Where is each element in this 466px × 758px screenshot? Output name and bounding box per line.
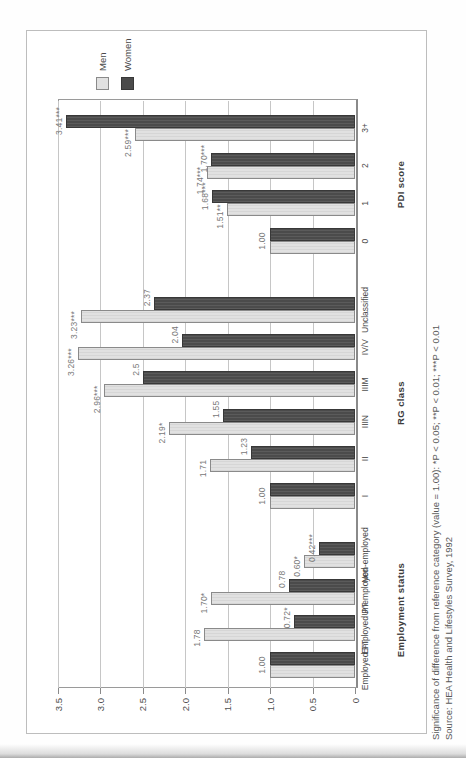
bar-men-iiim xyxy=(104,384,355,397)
tick-label-2-0: 2.0 xyxy=(180,698,191,724)
tick-mark-1-0 xyxy=(270,688,271,694)
value-label-men-non-employed: 0.60* xyxy=(292,556,302,577)
footnote-significance: Significance of difference from referenc… xyxy=(430,325,441,740)
group-title-rg-class: RG class xyxy=(395,318,406,488)
category-label-unclassified: Unclassified xyxy=(360,278,370,342)
bar-men-unclassified xyxy=(81,310,355,323)
tick-mark-0-5 xyxy=(313,688,314,694)
category-label-3: 3+ xyxy=(360,96,370,160)
value-label-women-3: 3.41*** xyxy=(54,107,64,135)
tick-mark-3-5 xyxy=(58,688,59,694)
value-label-women-non-employed: 0.42*** xyxy=(307,534,317,562)
page-edge-shadow xyxy=(0,744,466,758)
value-label-women-employed-pt: 0.72* xyxy=(282,607,292,628)
tick-label-3-0: 3.0 xyxy=(95,698,106,724)
bar-women-3 xyxy=(66,115,355,128)
tick-label-1-5: 1.5 xyxy=(222,698,233,724)
bar-women-employed-pt xyxy=(294,615,355,628)
bar-women-employed-ft xyxy=(270,652,355,665)
plot-area: 3.53.02.52.01.51.00.501.00Employed FT1.7… xyxy=(0,0,466,758)
value-label-men-ii: 1.71 xyxy=(198,460,208,477)
value-label-men-unemployed: 1.70* xyxy=(199,593,209,614)
bar-women-ii xyxy=(251,446,355,459)
value-label-women-unemployed: 0.78 xyxy=(277,571,287,588)
tick-label-3-5: 3.5 xyxy=(53,698,64,724)
legend-item-women: Women xyxy=(121,38,134,90)
legend-men-swatch xyxy=(96,77,109,90)
footnote-source: Source: HEA Health and Lifestyles Survey… xyxy=(443,537,454,740)
value-label-i: 1.00 xyxy=(257,466,267,526)
value-label-men-1: 1.51** xyxy=(215,204,225,228)
tick-mark-0 xyxy=(355,688,356,694)
value-label-men-unclassified: 3.23*** xyxy=(69,311,79,339)
group-title-employment-status: Employment status xyxy=(395,525,406,695)
value-label-employed-ft: 1.00 xyxy=(257,635,267,695)
chart-rotated-canvas: 3.53.02.52.01.51.00.501.00Employed FT1.7… xyxy=(0,0,466,758)
value-label-0: 1.00 xyxy=(257,211,267,271)
bar-men-3 xyxy=(135,128,355,141)
bar-men-1 xyxy=(227,203,355,216)
bar-women-unemployed xyxy=(289,579,355,592)
value-label-women-iiim: 2.5 xyxy=(131,363,141,375)
bar-women-iiin xyxy=(223,409,355,422)
bar-women-unclassified xyxy=(154,297,355,310)
bar-men-i xyxy=(270,496,355,509)
value-label-men-iv-v: 3.26*** xyxy=(66,348,76,376)
scanned-chart-page: 3.53.02.52.01.51.00.501.00Employed FT1.7… xyxy=(0,0,466,758)
category-label-non-employed: Non-employed xyxy=(360,523,370,587)
bar-women-iiim xyxy=(143,371,355,384)
bar-women-2 xyxy=(211,153,355,166)
bar-women-i xyxy=(270,483,355,496)
group-title-pdi-score: PDI score xyxy=(395,100,406,270)
bar-men-employed-ft xyxy=(270,665,355,678)
value-label-men-employed-pt: 1.78 xyxy=(192,629,202,646)
gridline-3-5 xyxy=(58,101,59,688)
bar-men-iiin xyxy=(169,422,355,435)
legend-men-label: Men xyxy=(97,53,108,71)
tick-label-2-5: 2.5 xyxy=(137,698,148,724)
tick-mark-2-0 xyxy=(185,688,186,694)
bar-men-employed-pt xyxy=(204,628,355,641)
legend-item-men: Men xyxy=(96,38,109,90)
bar-men-unemployed xyxy=(211,592,355,605)
value-label-men-iiim: 2.96*** xyxy=(92,385,102,413)
bar-women-iv-v xyxy=(182,334,355,347)
tick-label-0: 0 xyxy=(350,698,361,724)
value-label-men-3: 2.59*** xyxy=(123,129,133,157)
bar-women-0 xyxy=(270,228,355,241)
tick-mark-1-5 xyxy=(228,688,229,694)
tick-mark-2-5 xyxy=(143,688,144,694)
tick-mark-3-0 xyxy=(100,688,101,694)
bar-women-1 xyxy=(212,190,355,203)
value-label-men-iiin: 2.19* xyxy=(157,423,167,444)
bar-women-non-employed xyxy=(319,542,355,555)
legend-women-label: Women xyxy=(122,38,133,71)
bar-men-2 xyxy=(207,166,355,179)
value-label-women-unclassified: 2.37 xyxy=(142,289,152,306)
tick-label-1-0: 1.0 xyxy=(265,698,276,724)
value-label-women-iiin: 1.55 xyxy=(211,401,221,418)
value-label-women-iv-v: 2.04 xyxy=(170,326,180,343)
value-label-women-2: 1.70*** xyxy=(199,145,209,173)
legend: Men Women xyxy=(96,38,146,90)
bar-men-0 xyxy=(270,241,355,254)
value-label-women-ii: 1.23 xyxy=(239,438,249,455)
tick-label-0-5: 0.5 xyxy=(307,698,318,724)
bar-men-iv-v xyxy=(78,347,355,360)
bar-men-ii xyxy=(210,459,355,472)
legend-women-swatch xyxy=(121,77,134,90)
